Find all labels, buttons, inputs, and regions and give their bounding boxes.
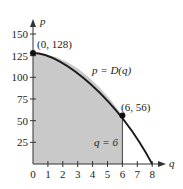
y-axis-label: p — [39, 15, 46, 27]
chart: 0 1 2 3 4 5 6 7 8 25 50 75 100 125 150 q… — [0, 0, 183, 189]
x-tick-label: 6 — [120, 168, 126, 180]
point-6-56 — [119, 112, 125, 118]
point-b-label: (6, 56) — [121, 101, 151, 114]
x-axis-label: q — [169, 157, 175, 169]
curve-label: p = D(q) — [91, 64, 132, 77]
vline-label: q = 6 — [94, 136, 118, 148]
y-tick-label: 50 — [17, 115, 29, 127]
x-tick-label: 2 — [60, 168, 66, 180]
y-tick-label: 75 — [17, 93, 29, 105]
x-tick-label: 4 — [90, 168, 96, 180]
x-axis-arrow-icon — [158, 161, 166, 167]
y-tick-label: 125 — [12, 50, 29, 62]
x-tick-label: 0 — [30, 168, 36, 180]
x-tick-label: 3 — [75, 168, 81, 180]
x-tick-label: 7 — [135, 168, 141, 180]
point-0-128 — [30, 50, 36, 56]
y-tick-label: 25 — [17, 136, 29, 148]
x-tick-label: 5 — [105, 168, 111, 180]
x-tick-label: 8 — [149, 168, 155, 180]
y-axis-arrow-icon — [30, 19, 36, 27]
y-tick-label: 100 — [12, 71, 29, 83]
y-tick-label: 150 — [12, 28, 29, 40]
x-tick-label: 1 — [45, 168, 51, 180]
point-a-label: (0, 128) — [37, 38, 72, 51]
